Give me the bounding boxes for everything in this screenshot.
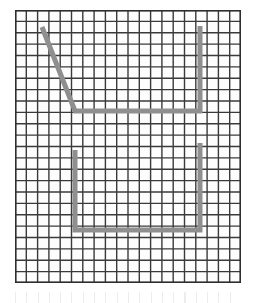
grid-lines xyxy=(15,10,241,283)
figure-canvas xyxy=(0,0,255,303)
ghost-grid-strip xyxy=(15,292,241,303)
grid-figure xyxy=(15,10,241,283)
